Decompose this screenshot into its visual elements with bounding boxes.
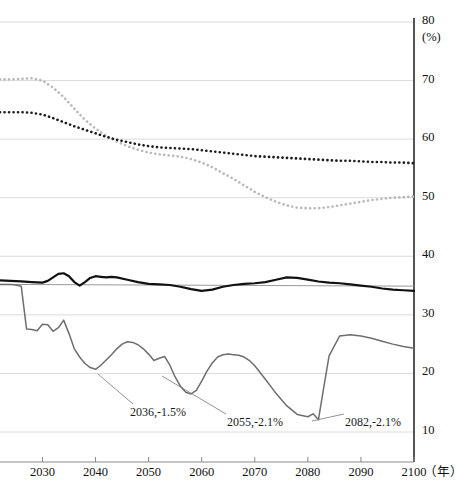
y-tick-label-40: 40 xyxy=(422,248,435,261)
x-tick-label-2040: 2040 xyxy=(74,466,118,479)
annotation-2036: 2036,-1.5% xyxy=(130,405,186,420)
axis-lines xyxy=(0,18,414,462)
y-tick-label-50: 50 xyxy=(422,190,435,203)
y-tick-label-30: 30 xyxy=(422,307,435,320)
annotation-2082: 2082,-2.1% xyxy=(345,415,401,430)
x-tick-label-2070: 2070 xyxy=(233,466,277,479)
chart-container: 1020304050607080 20302040205020602070208… xyxy=(0,0,469,497)
annotation-2036-leader xyxy=(98,374,133,404)
y-tick-label-10: 10 xyxy=(422,424,435,437)
data-series xyxy=(0,78,414,419)
y-tick-label-20: 20 xyxy=(422,365,435,378)
series-thick-black-wavy xyxy=(0,273,414,291)
x-axis-unit-label: （年） xyxy=(424,466,463,479)
y-tick-label-60: 60 xyxy=(422,131,435,144)
x-tick-label-2080: 2080 xyxy=(286,466,330,479)
y-tick-label-70: 70 xyxy=(422,73,435,86)
x-axis-ticks xyxy=(42,457,414,462)
x-tick-label-2060: 2060 xyxy=(180,466,224,479)
series-light-gray-dotted-upper xyxy=(0,78,414,208)
series-dark-dotted-upper xyxy=(0,112,414,163)
series-gray-declining-lower xyxy=(0,284,414,419)
x-tick-label-2030: 2030 xyxy=(20,466,64,479)
x-tick-label-2050: 2050 xyxy=(127,466,171,479)
y-axis-unit-label: (%) xyxy=(422,31,441,44)
y-tick-label-80: 80 xyxy=(422,14,435,27)
x-tick-label-2090: 2090 xyxy=(339,466,383,479)
annotation-2055: 2055,-2.1% xyxy=(227,415,283,430)
